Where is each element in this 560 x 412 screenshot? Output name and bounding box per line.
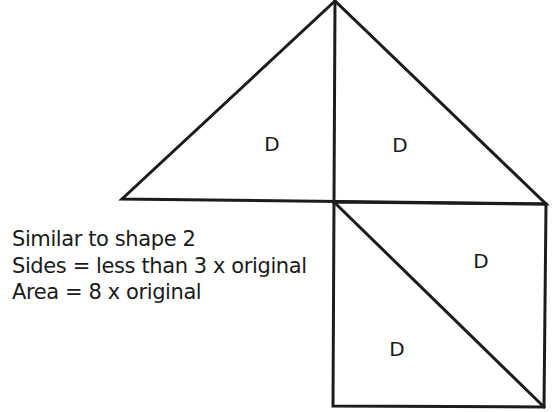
square-diagonal-line <box>334 202 544 407</box>
region-label-square-upper: D <box>473 249 488 273</box>
caption-area-ratio: Area = 8 x original <box>12 279 307 306</box>
region-label-triangle-left: D <box>264 132 279 156</box>
region-label-triangle-right: D <box>392 133 407 157</box>
caption-sides-ratio: Sides = less than 3 x original <box>12 253 307 280</box>
caption-similarity: Similar to shape 2 <box>12 226 307 253</box>
shape-diagram: D D D D <box>0 0 560 412</box>
region-label-square-lower: D <box>389 337 404 361</box>
shape-caption: Similar to shape 2 Sides = less than 3 x… <box>12 226 307 306</box>
triangle-altitude-line <box>334 1 335 203</box>
